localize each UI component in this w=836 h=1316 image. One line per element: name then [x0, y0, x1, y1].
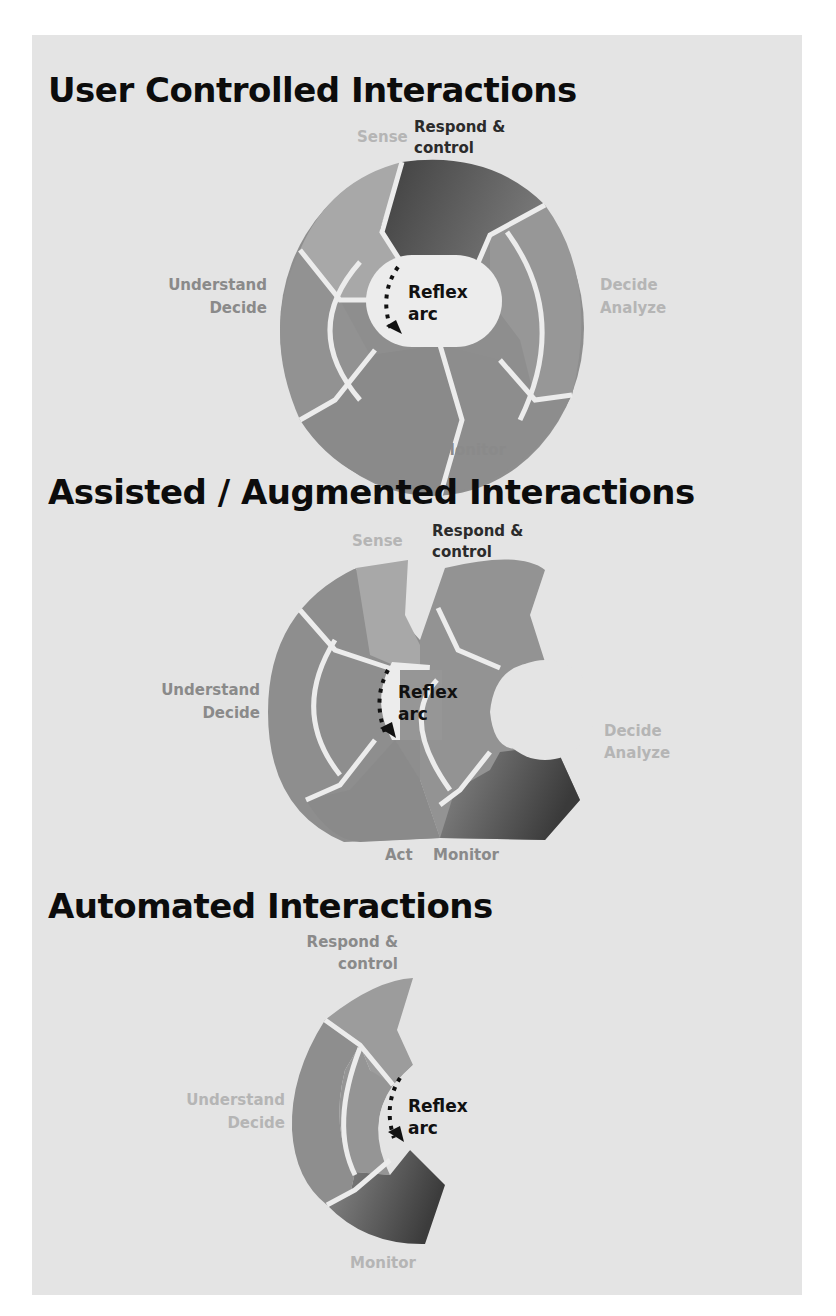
label-understand-line1: Understand: [186, 1091, 285, 1109]
reflex-label-line1: Reflex: [408, 1096, 468, 1116]
reflex-label-line1: Reflex: [398, 682, 458, 702]
diagram-canvas: Reflex arc Sense Respond & control Under…: [0, 0, 836, 1316]
label-respond-line1: Respond &: [432, 522, 523, 540]
label-monitor: Monitor: [433, 846, 500, 864]
label-respond-line2: control: [338, 955, 398, 973]
label-monitor: Monitor: [440, 441, 507, 459]
label-understand-line1: Understand: [168, 276, 267, 294]
label-understand-line2: Decide: [202, 704, 260, 722]
label-decide-line1: Decide: [604, 722, 662, 740]
reflex-label-line2: arc: [408, 304, 438, 324]
label-understand-line2: Decide: [209, 299, 267, 317]
label-respond-line1: Respond &: [414, 118, 505, 136]
reflex-label-line1: Reflex: [408, 282, 468, 302]
label-respond-line2: control: [414, 139, 474, 157]
reflex-label-line2: arc: [408, 1118, 438, 1138]
label-act: Act: [385, 846, 413, 864]
label-act: Act: [393, 441, 421, 459]
label-decide-line2: Analyze: [604, 744, 670, 762]
label-respond-line2: control: [432, 543, 492, 561]
label-decide-line1: Decide: [600, 276, 658, 294]
section-title-assisted-augmented: Assisted / Augmented Interactions: [48, 472, 695, 512]
label-monitor: Monitor: [350, 1254, 417, 1272]
label-understand-line1: Understand: [161, 681, 260, 699]
section-title-automated: Automated Interactions: [48, 886, 493, 926]
label-sense: Sense: [357, 128, 408, 146]
label-understand-line2: Decide: [227, 1114, 285, 1132]
user-controlled-cycle-diagram: Reflex arc Sense Respond & control Under…: [168, 118, 666, 496]
label-respond-line1: Respond &: [307, 933, 398, 951]
label-sense: Sense: [352, 532, 403, 550]
label-decide-line2: Analyze: [600, 299, 666, 317]
automated-cycle-diagram: Reflex arc Respond & control Understand …: [186, 933, 468, 1272]
reflex-label-line2: arc: [398, 704, 428, 724]
assisted-augmented-cycle-diagram: Reflex arc Sense Respond & control Under…: [161, 522, 670, 864]
